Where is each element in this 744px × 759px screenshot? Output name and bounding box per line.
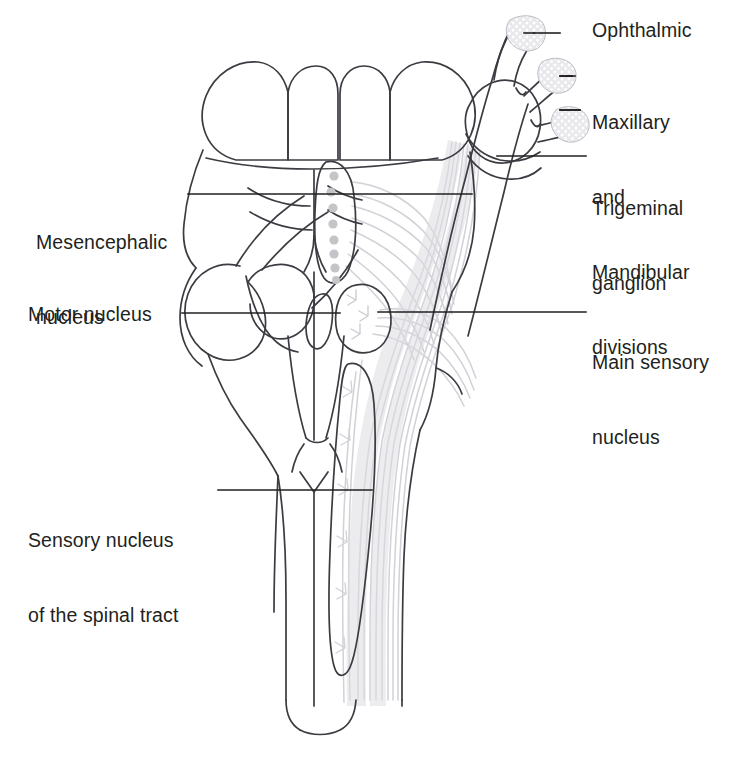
label-sensory-nucleus-spinal-tract: Sensory nucleus of the spinal tract xyxy=(28,478,178,678)
label-sensory-nucleus-line: Sensory nucleus xyxy=(28,528,178,553)
label-spinal-tract-line: of the spinal tract xyxy=(28,603,178,628)
label-main-sensory-line: Main sensory xyxy=(592,350,709,375)
label-mesencephalic-line: Mesencephalic xyxy=(36,230,167,255)
trigeminal-nuclei-figure: Ophthalmic Maxillary and Mandibular divi… xyxy=(0,0,744,759)
label-main-sensory-nucleus: Main sensory nucleus xyxy=(592,300,709,500)
label-mesencephalic-nucleus: Mesencephalic nucleus xyxy=(36,180,167,380)
label-motor-nucleus: Motor nucleus xyxy=(28,302,152,327)
label-maxillary-line: Maxillary xyxy=(592,110,689,135)
label-ophthalmic: Ophthalmic xyxy=(592,18,692,43)
label-trigeminal-line: Trigeminal xyxy=(592,196,683,221)
label-main-sensory-nucleus-line: nucleus xyxy=(592,425,709,450)
label-ganglion-line: ganglion xyxy=(592,271,683,296)
